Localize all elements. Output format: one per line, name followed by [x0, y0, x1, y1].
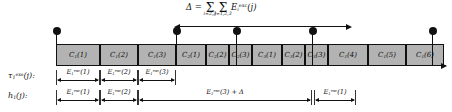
measure-arrow [58, 100, 98, 101]
release-pin [312, 34, 313, 65]
measure-span: E1exc(3) + Δ [138, 90, 312, 105]
timeline-block: C3(2) [282, 44, 305, 65]
energy-term-superscript: exc [239, 3, 247, 9]
measure-arrow [140, 100, 310, 101]
block-label: C1(1) [69, 51, 87, 59]
timeline-block: C1(4) [328, 44, 368, 65]
timeline-block: C3(3) [305, 44, 328, 65]
timeline-block: C1(3) [138, 44, 176, 65]
measure-span: E1exc(1) [56, 90, 100, 105]
block-label: C1(3) [148, 51, 166, 59]
release-pin-head [233, 27, 241, 35]
measure-span: E1exc(1) [56, 70, 100, 85]
release-pin-head [173, 27, 181, 35]
summation-inner: Σ j=1,2,3 [219, 2, 227, 14]
block-label: C3(2) [285, 51, 303, 59]
timeline-block-row: C1(1)C1(2)C1(3)C2(1)C2(2)C2(3)C3(1)C3(2)… [56, 44, 444, 65]
energy-term: Eiexc(j) [231, 2, 257, 12]
delta-symbol: Δ [186, 2, 192, 12]
row-label: h1(j): [8, 92, 28, 100]
timeline-block: C3(1) [252, 44, 282, 65]
release-pin [236, 34, 237, 65]
measure-label: E1exc(3) + Δ [138, 89, 312, 96]
block-label: C1(4) [339, 51, 357, 59]
block-label: C2(2) [209, 51, 227, 59]
summation-inner-limits: j=1,2,3 [215, 12, 232, 17]
row-label: τ1exe(j): [8, 72, 35, 80]
measure-label: E1exc(1) [56, 89, 100, 96]
measure-label: E1exc(2) [100, 89, 138, 96]
energy-term-argument: (j) [247, 2, 256, 12]
release-pin [176, 34, 177, 65]
equals-sign: = [195, 2, 202, 12]
delta-span-arrow [174, 22, 352, 30]
measure-label: E1exc(2) [100, 69, 138, 76]
measure-arrow [58, 80, 98, 81]
timeline-block: C2(3) [229, 44, 252, 65]
measure-arrow [102, 80, 136, 81]
measure-arrow [140, 80, 174, 81]
release-pin [432, 34, 433, 65]
block-label: C1(2) [110, 51, 128, 59]
delta-span-line [179, 26, 347, 27]
measure-span: E1exc(2) [100, 90, 138, 105]
figure-canvas: Δ = Σ i=2,3 Σ j=1,2,3 Eiexc(j) C1(1)C1(2… [0, 0, 452, 112]
block-label: C3(3) [308, 51, 326, 59]
timeline-block: C1(1) [56, 44, 100, 65]
delta-formula: Δ = Σ i=2,3 Σ j=1,2,3 Eiexc(j) [186, 2, 257, 14]
timeline-axis [56, 65, 446, 66]
timeline-block: C2(2) [206, 44, 229, 65]
measure-span: E1exc(2) [100, 70, 138, 85]
measure-arrow [316, 100, 354, 101]
timeline-block: C2(1) [176, 44, 206, 65]
block-label: C2(3) [232, 51, 250, 59]
measure-span: E1exc(3) [138, 70, 176, 85]
release-pin [56, 34, 57, 65]
measure-label: E1exc(1) [56, 69, 100, 76]
timeline-block: C1(5) [368, 44, 406, 65]
measure-label: E1exc(1) [314, 89, 356, 96]
release-pin-head [429, 27, 437, 35]
block-label: C2(1) [182, 51, 200, 59]
block-label: C1(5) [378, 51, 396, 59]
timeline-block: C1(6) [406, 44, 444, 65]
measure-span: E1exc(1) [314, 90, 356, 105]
measure-label: E1exc(3) [138, 69, 176, 76]
release-pin-head [309, 27, 317, 35]
release-pin-head [53, 27, 61, 35]
summation-outer: Σ i=2,3 [206, 2, 214, 14]
timeline-block: C1(2) [100, 44, 138, 65]
block-label: C3(1) [258, 51, 276, 59]
measure-arrow [102, 100, 136, 101]
